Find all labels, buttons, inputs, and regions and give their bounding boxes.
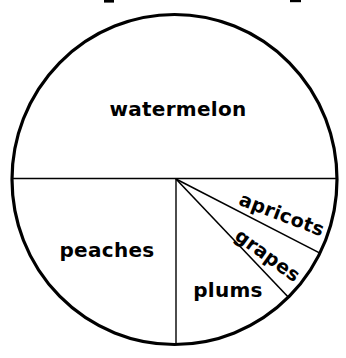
cropped-title-fragment-left: [104, 0, 114, 3]
slice-label-peaches: peaches: [59, 238, 154, 262]
pie-chart-svg: watermelon peaches plums apricots grapes: [0, 0, 346, 358]
slice-label-watermelon: watermelon: [109, 97, 246, 121]
cropped-title-fragment-right: [290, 0, 301, 2]
pie-outline-circle: [12, 15, 337, 345]
slice-label-plums: plums: [193, 278, 263, 302]
pie-chart-figure: watermelon peaches plums apricots grapes: [0, 0, 346, 358]
